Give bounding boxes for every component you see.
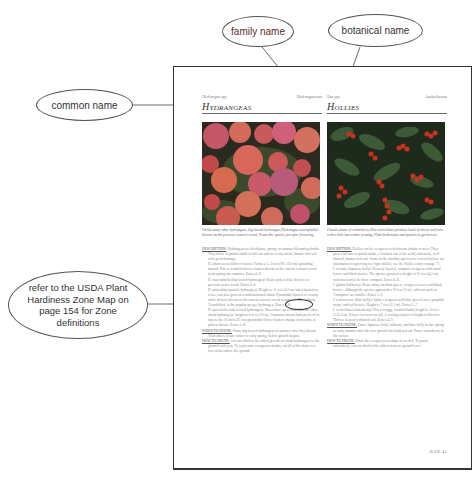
zone-callout-line-2: Hardiness Zone Map on: [27, 294, 128, 306]
botanical-name-callout: botanical name: [328, 14, 423, 47]
species-paragraph: I. crenata (Japanese holly): Densely lay…: [327, 267, 445, 282]
how-to-prune-label: How to prune:: [202, 339, 230, 343]
holly-photo: [327, 122, 445, 225]
when-to-prune-paragraph: When to prune: Prune Japanese holly, ink…: [327, 323, 445, 338]
zone-callout-line-1: refer to the USDA Plant: [29, 282, 128, 294]
common-name-callout: common name: [36, 89, 133, 121]
botanical-name-callout-text: botanical name: [342, 25, 410, 36]
species-paragraph: I. x meserveae (blue holly): Spiny everg…: [327, 298, 445, 308]
family-name-callout: family name: [222, 16, 294, 47]
photo-caption: Female plants of winterberry (Ilex verti…: [327, 228, 445, 238]
description-paragraph: Description: Hollies can be evergreen or…: [327, 247, 445, 267]
family-name-callout-text: family name: [231, 26, 285, 37]
zone-callout-line-4: definitions: [57, 317, 100, 329]
species-paragraph: I. verticillata (winterberry): Has a twi…: [327, 308, 445, 323]
zone-callout-line-3: page 154 for Zone: [39, 305, 117, 317]
species-paragraph: I. glabra (inkberry): Bears shiny, mediu…: [327, 283, 445, 298]
botanical-name: Hydrangea spp.: [202, 94, 228, 99]
family-name: Hydrangeaceae: [297, 94, 322, 99]
common-name-title: Hollies: [327, 101, 447, 114]
species-paragraph: H. arborescens (hills-of-snow): Forms a …: [202, 262, 320, 277]
when-to-prune-label: When to prune:: [327, 323, 357, 327]
common-name-callout-text: common name: [51, 100, 117, 111]
how-to-prune-label: How to prune:: [327, 339, 355, 343]
book-page: Hydrangea spp. Hydrangeaceae Hydrangeas: [173, 66, 472, 470]
when-to-prune-paragraph: When to prune: Prune big-leaved hydrange…: [202, 329, 320, 339]
description-label: Description:: [202, 247, 226, 251]
species-paragraph: H. quercifolia (oak-leaved hydrangea): H…: [202, 308, 320, 328]
entry-body: Description: Hollies can be evergreen or…: [327, 247, 445, 349]
species-paragraph: H. macrophylla (big-leaved hydrangea): B…: [202, 278, 320, 288]
description-paragraph: Description: Hydrangeas are deciduous, s…: [202, 247, 320, 262]
how-to-prune-paragraph: How to prune: Cut one-third of the oldes…: [202, 339, 320, 354]
zone-highlight-ellipse: [285, 299, 313, 310]
running-head: Hydrangea spp. Hydrangeaceae: [202, 94, 322, 99]
running-head: Ilex spp. Aquifoliaceae: [327, 94, 447, 99]
description-label: Description:: [327, 247, 351, 251]
page-folio: ILEX 41: [429, 449, 447, 454]
zone-map-callout: refer to the USDA Plant Hardiness Zone M…: [8, 271, 148, 339]
botanical-name: Ilex spp.: [327, 94, 341, 99]
how-to-prune-paragraph: How to prune: Prune the evergreens to sh…: [327, 339, 445, 349]
photo-caption: Unlike many other hydrangeas, big-leaved…: [202, 228, 320, 238]
family-name: Aquifoliaceae: [425, 94, 447, 99]
common-name-title: Hydrangeas: [202, 101, 322, 114]
when-to-prune-label: When to prune:: [202, 329, 232, 333]
hydrangea-photo: [202, 122, 320, 225]
